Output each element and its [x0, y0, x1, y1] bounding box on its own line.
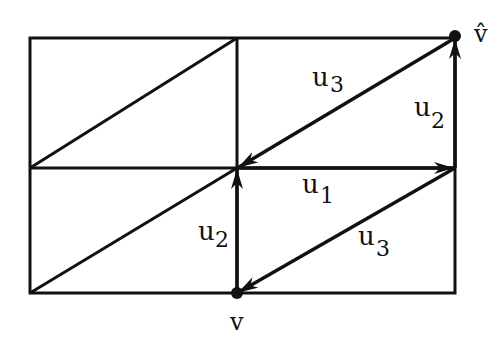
- label-u3-bottom: u: [358, 221, 375, 251]
- label-u2-left: u: [198, 216, 215, 246]
- diagonal-top-left: [30, 38, 237, 168]
- vertex-v-dot: [231, 287, 243, 299]
- label-v-hat: v̂: [473, 20, 488, 48]
- label-u3-top-sub: 3: [330, 72, 344, 97]
- label-u2-right: u: [414, 92, 431, 122]
- label-u3-bottom-sub: 3: [376, 236, 390, 261]
- label-u3-top: u: [312, 62, 329, 92]
- label-u1-sub: 1: [320, 183, 334, 208]
- label-u2-left-sub: 2: [215, 227, 229, 252]
- label-u1: u: [302, 169, 319, 199]
- arrow-u3-bottom: [239, 168, 455, 292]
- label-v: v: [229, 308, 244, 336]
- vertex-v-hat-dot: [449, 30, 461, 42]
- vector-grid-diagram: v̂ v u 3 u 2 u 1 u 2 u 3: [0, 0, 503, 338]
- label-u2-right-sub: 2: [431, 108, 445, 133]
- vector-arrows: [237, 38, 455, 293]
